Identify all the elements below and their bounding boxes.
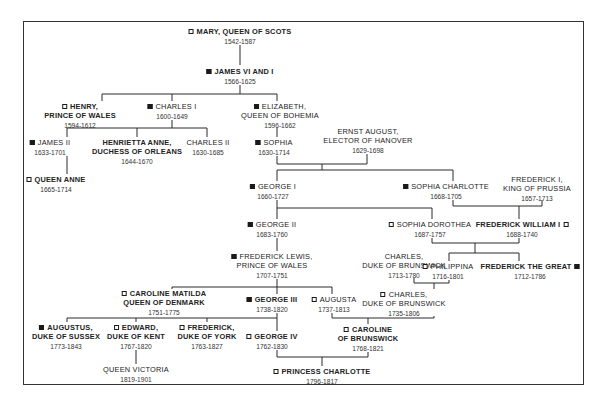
person-frederick-lewis: FREDERICK LEWIS, PRINCE OF WALES 1707-17… (231, 252, 312, 280)
person-princess-charlotte: PRINCESS CHARLOTTE 1796-1817 (273, 367, 370, 386)
person-mary-queen-of-scots: MARY, QUEEN OF SCOTS 1542-1587 (189, 27, 292, 46)
open-square-marker-icon (179, 325, 184, 330)
open-square-marker-icon (62, 104, 67, 109)
person-charles-duke-of-brunswick-1735: CHARLES, DUKE OF BRUNSWICK 1735-1806 (362, 290, 445, 318)
person-charles-i: CHARLES I 1600-1649 (148, 102, 197, 121)
open-square-marker-icon (26, 177, 31, 182)
person-charles-ii: CHARLES II 1630-1685 (186, 138, 229, 157)
person-edward-duke-of-kent: EDWARD, DUKE OF KENT 1767-1820 (107, 323, 165, 351)
filled-square-marker-icon (247, 297, 252, 302)
person-frederick-william-i: FREDERICK WILLIAM I 1688-1740 (476, 220, 569, 239)
person-frederick-the-great: FREDERICK THE GREAT 1712-1786 (480, 262, 579, 281)
person-george-i: GEORGE I 1660-1727 (250, 182, 296, 201)
open-square-marker-icon (246, 334, 251, 339)
person-elizabeth-queen-of-bohemia: ELIZABETH, QUEEN OF BOHEMIA 1596-1662 (241, 102, 319, 130)
person-augusta: AUGUSTA 1737-1813 (312, 295, 357, 314)
person-james-ii: JAMES II 1633-1701 (30, 138, 70, 157)
filled-square-marker-icon (254, 104, 259, 109)
open-square-marker-icon (114, 325, 119, 330)
open-square-marker-icon (273, 369, 278, 374)
person-queen-victoria: QUEEN VICTORIA 1819-1901 (103, 365, 169, 384)
person-frederick-duke-of-york: FREDERICK, DUKE OF YORK 1763-1827 (178, 323, 237, 351)
person-caroline-of-brunswick: CAROLINE OF BRUNSWICK 1768-1821 (338, 325, 399, 353)
open-square-marker-icon (312, 297, 317, 302)
person-frederick-i-king-of-prussia: FREDERICK I, KING OF PRUSSIA 1657-1713 (503, 175, 571, 203)
filled-square-marker-icon (255, 140, 260, 145)
person-george-iv: GEORGE IV 1762-1830 (246, 332, 297, 351)
person-philippina: PHILIPPINA 1716-1801 (423, 262, 474, 281)
person-sophia-dorothea: SOPHIA DOROTHEA 1687-1757 (389, 220, 471, 239)
person-ernst-august: ERNST AUGUST, ELECTOR OF HANOVER 1629-16… (323, 127, 412, 155)
person-george-iii: GEORGE III 1738-1820 (247, 295, 298, 314)
filled-square-marker-icon (250, 184, 255, 189)
filled-square-marker-icon (403, 184, 408, 189)
open-square-marker-icon (423, 264, 428, 269)
open-square-marker-icon (344, 327, 349, 332)
open-square-marker-icon (389, 222, 394, 227)
person-henry-prince-of-wales: HENRY, PRINCE OF WALES 1594-1612 (44, 102, 116, 130)
filled-square-marker-icon (575, 264, 580, 269)
filled-square-marker-icon (231, 254, 236, 259)
filled-square-marker-icon (148, 104, 153, 109)
open-square-marker-icon (189, 29, 194, 34)
person-george-ii: GEORGE II 1683-1760 (248, 220, 296, 239)
open-square-marker-icon (563, 222, 568, 227)
person-sophia: SOPHIA 1630-1714 (255, 138, 292, 157)
filled-square-marker-icon (206, 69, 211, 74)
person-caroline-matilda: CAROLINE MATILDA QUEEN OF DENMARK 1751-1… (122, 289, 207, 317)
open-square-marker-icon (381, 292, 386, 297)
person-augustus-duke-of-sussex: AUGUSTUS, DUKE OF SUSSEX 1773-1843 (32, 323, 100, 351)
filled-square-marker-icon (30, 140, 35, 145)
person-james-vi-and-i: JAMES VI AND I 1566-1625 (206, 67, 273, 86)
filled-square-marker-icon (248, 222, 253, 227)
person-henrietta-anne: HENRIETTA ANNE, DUCHESS OF ORLEANS 1644-… (92, 138, 182, 166)
filled-square-marker-icon (39, 325, 44, 330)
open-square-marker-icon (122, 291, 127, 296)
person-sophia-charlotte: SOPHIA CHARLOTTE 1668-1705 (403, 182, 489, 201)
person-queen-anne: QUEEN ANNE 1665-1714 (26, 175, 85, 194)
